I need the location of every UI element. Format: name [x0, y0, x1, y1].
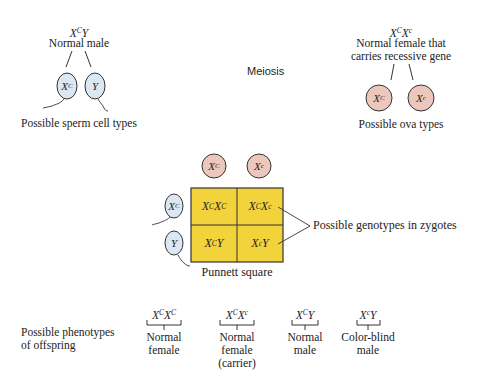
sperm-caption: Possible sperm cell types [21, 117, 137, 130]
gamete-label: XC [57, 79, 77, 93]
punnett-top-header: Xc [249, 159, 269, 173]
gamete-label: XC [369, 91, 389, 105]
phenotype-heading-line2: of offspring [21, 339, 75, 352]
punnett-cell: XCXc [237, 188, 283, 225]
mother-label-line2: carries recessive gene [351, 50, 451, 63]
phenotype-label: male [294, 344, 316, 357]
phenotype-label: Normal [146, 331, 181, 344]
phenotype-heading-line1: Possible phenotypes [21, 326, 115, 339]
phenotype-label: (carrier) [218, 357, 256, 370]
phenotype-label: Normal [287, 331, 322, 344]
gamete-label: Y [85, 79, 105, 93]
phenotype-label: male [357, 344, 379, 357]
branch-line [66, 51, 72, 67]
punnett-cell: XcY [237, 225, 283, 262]
phenotype-genotype: XCXc [226, 306, 248, 322]
punnett-title: Punnett square [202, 266, 273, 279]
phenotype-brackets [147, 320, 380, 330]
phenotype-label: female [148, 344, 179, 357]
branch-line [409, 64, 413, 80]
branch-line [85, 51, 91, 67]
phenotype-genotype: XcY [360, 306, 377, 322]
zygote-callout: Possible genotypes in zygotes [313, 219, 457, 232]
process-label: Meiosis [247, 65, 284, 77]
punnett-side-header: Y [164, 236, 184, 250]
phenotype-label: Color-blind [341, 331, 394, 344]
punnett-cell: XCY [191, 225, 237, 262]
gamete-label: Xc [411, 91, 431, 105]
phenotype-genotype: XCY [296, 306, 314, 322]
phenotype-genotype: XCXC [152, 306, 176, 322]
branch-line [391, 64, 394, 80]
ova-caption: Possible ova types [359, 118, 444, 131]
punnett-cell: XCXC [191, 188, 237, 225]
father-label: Normal male [49, 37, 109, 50]
punnett-top-header: XC [204, 159, 224, 173]
mother-label-line1: Normal female that [356, 37, 445, 50]
phenotype-label: Normal [219, 331, 254, 344]
punnett-side-header: XC [164, 199, 184, 213]
phenotype-label: female [221, 344, 252, 357]
